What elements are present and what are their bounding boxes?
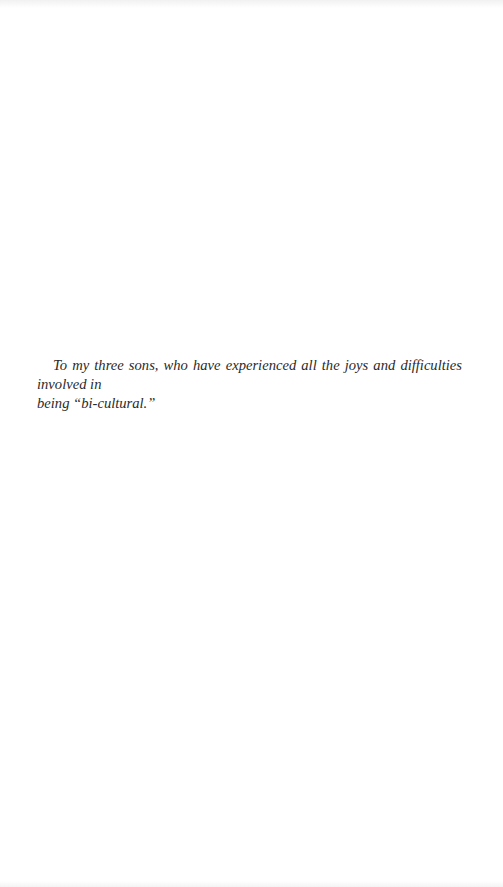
dedication-text-1: To my three sons, who have experienced a… xyxy=(37,357,462,392)
dedication-line-2: being “bi-cultural.” xyxy=(37,394,462,413)
page-edge-bottom xyxy=(0,881,503,887)
dedication-paragraph: To my three sons, who have experienced a… xyxy=(37,356,462,413)
page-edge-top xyxy=(0,0,503,8)
dedication-line-1: To my three sons, who have experienced a… xyxy=(37,356,462,394)
dedication-text-2: being “bi-cultural.” xyxy=(37,395,155,411)
